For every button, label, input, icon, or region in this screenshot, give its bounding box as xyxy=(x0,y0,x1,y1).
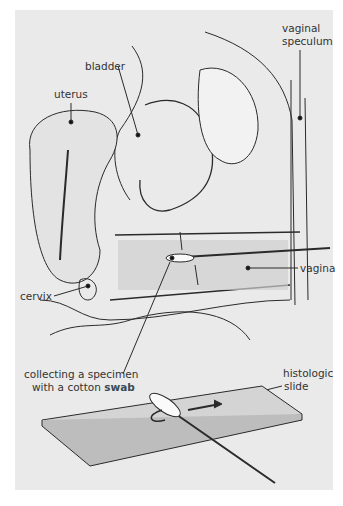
label-collecting-prefix: with a cotton xyxy=(32,381,101,393)
label-bladder: bladder xyxy=(85,60,125,72)
label-uterus: uterus xyxy=(54,88,88,100)
label-vaginal-speculum-2: speculum xyxy=(282,35,333,47)
label-slide: slide xyxy=(284,380,308,392)
label-vagina: vagina xyxy=(300,262,335,274)
anatomy-illustration xyxy=(0,0,343,506)
label-cervix: cervix xyxy=(20,290,52,302)
label-collecting-2: with a cotton swab xyxy=(32,381,135,393)
label-swab-term: swab xyxy=(104,381,135,393)
label-collecting-1: collecting a specimen xyxy=(24,368,138,380)
label-vaginal-speculum-1: vaginal xyxy=(282,22,320,34)
label-histologic: histologic xyxy=(283,367,333,379)
